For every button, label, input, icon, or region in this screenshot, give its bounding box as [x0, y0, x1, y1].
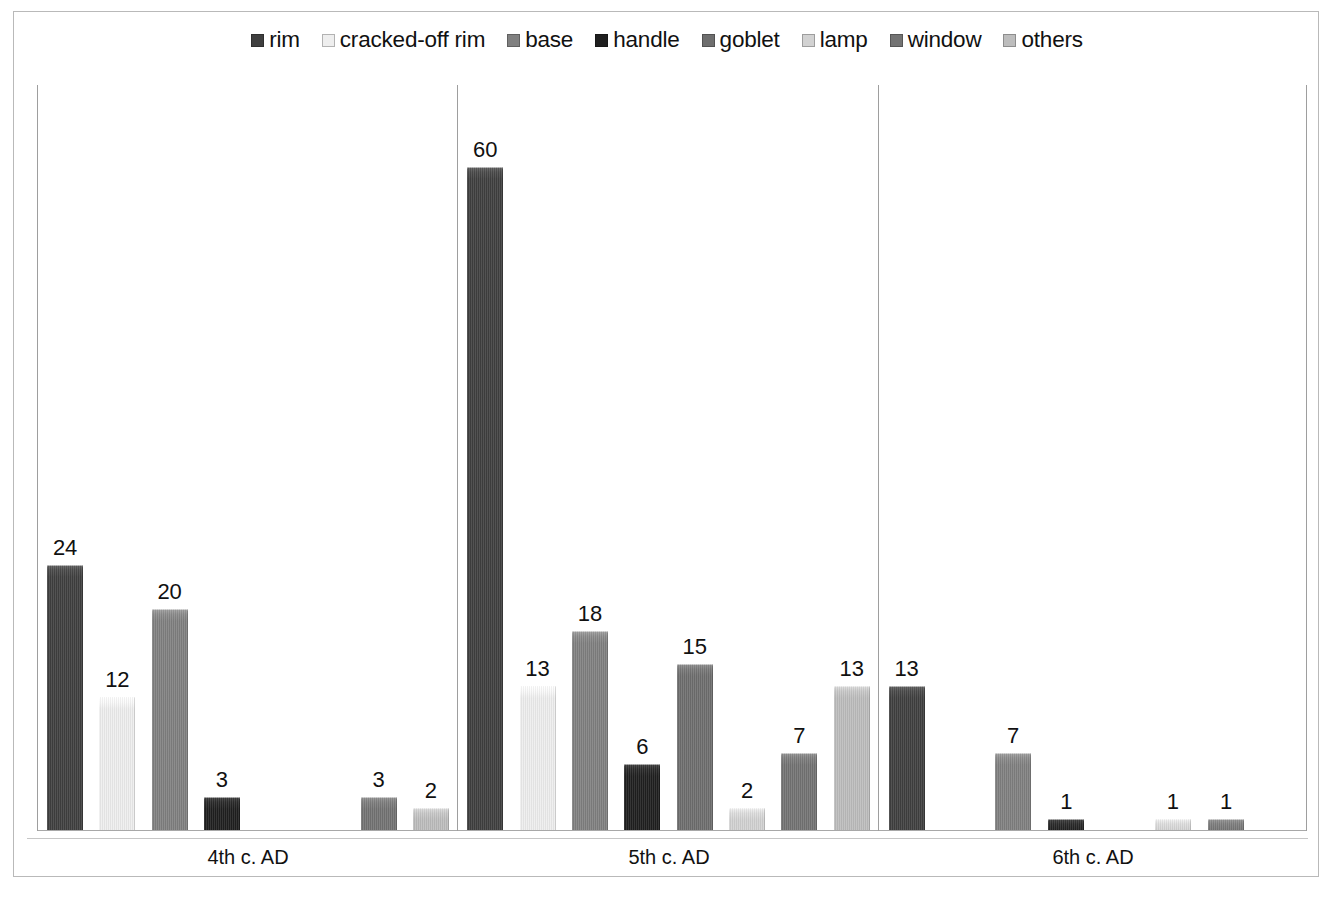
bar[interactable]: 3: [204, 797, 240, 830]
bar-slot-rim: 13: [880, 130, 933, 830]
bar-group-2: 6013186152713: [459, 130, 878, 830]
bar-slot-window: 7: [773, 130, 825, 830]
legend-item-rim[interactable]: rim: [251, 29, 300, 52]
legend-item-label: lamp: [820, 29, 868, 52]
category-label-3: 6th c. AD: [1013, 847, 1173, 867]
legend-item-label: handle: [613, 29, 679, 52]
bar-slot-others: 2: [405, 130, 457, 830]
bar-value-label: 24: [53, 537, 77, 559]
bar-value-label: 15: [682, 636, 706, 658]
legend-item-lamp[interactable]: lamp: [802, 29, 868, 52]
bar-slot-lamp: [300, 130, 352, 830]
bar-slot-handle: 1: [1040, 130, 1093, 830]
bar-value-label: 3: [216, 769, 228, 791]
legend-item-label: rim: [269, 29, 300, 52]
bar-slot-cracked-off-rim: [933, 130, 986, 830]
bar-slot-goblet: [1093, 130, 1146, 830]
bar-value-label: 20: [157, 581, 181, 603]
legend-item-label: others: [1021, 29, 1082, 52]
bar[interactable]: 3: [361, 797, 397, 830]
bar-value-label: 60: [473, 139, 497, 161]
bar-slot-cracked-off-rim: 12: [91, 130, 143, 830]
bar-slot-lamp: 1: [1146, 130, 1199, 830]
bar-slot-others: 13: [826, 130, 878, 830]
legend-item-label: base: [525, 29, 573, 52]
bar-value-label: 2: [741, 780, 753, 802]
bar-value-label: 13: [525, 658, 549, 680]
bar-value-label: 6: [636, 736, 648, 758]
bar-value-label: 1: [1220, 791, 1232, 813]
bar-slot-window: 3: [353, 130, 405, 830]
bar-groups: 2412203324th c. AD60131861527135th c. AD…: [27, 76, 1308, 839]
chart-legend: rimcracked-off rimbasehandlegobletlampwi…: [0, 29, 1334, 52]
bar-value-label: 7: [793, 725, 805, 747]
bar[interactable]: 1: [1208, 819, 1244, 830]
bar[interactable]: 2: [413, 808, 449, 830]
bar-slot-goblet: 15: [669, 130, 721, 830]
bar[interactable]: 2: [729, 808, 765, 830]
bar-slot-goblet: [248, 130, 300, 830]
bar-slot-handle: 3: [196, 130, 248, 830]
bar-value-label: 12: [105, 669, 129, 691]
bar-group-bars: 241220332: [39, 130, 457, 830]
bar-slot-cracked-off-rim: 13: [511, 130, 563, 830]
bar[interactable]: 13: [889, 686, 925, 830]
legend-item-label: goblet: [720, 29, 780, 52]
chart-root: rimcracked-off rimbasehandlegobletlampwi…: [0, 0, 1334, 899]
bar-group-1: 241220332: [39, 130, 457, 830]
bar-value-label: 13: [894, 658, 918, 680]
bar-value-label: 1: [1167, 791, 1179, 813]
legend-item-others[interactable]: others: [1003, 29, 1082, 52]
bar-group-bars: 6013186152713: [459, 130, 878, 830]
legend-item-window[interactable]: window: [890, 29, 982, 52]
bar-value-label: 7: [1007, 725, 1019, 747]
legend-swatch-icon: [1003, 34, 1016, 47]
bar[interactable]: 15: [677, 664, 713, 830]
legend-item-goblet[interactable]: goblet: [702, 29, 780, 52]
bar[interactable]: 1: [1048, 819, 1084, 830]
bar-value-label: 3: [373, 769, 385, 791]
bar[interactable]: 7: [995, 753, 1031, 830]
category-label-2: 5th c. AD: [589, 847, 749, 867]
bar-slot-handle: 6: [616, 130, 668, 830]
bar[interactable]: 20: [152, 609, 188, 830]
bar-value-label: 18: [578, 603, 602, 625]
bar[interactable]: 1: [1155, 819, 1191, 830]
bar-slot-base: 20: [144, 130, 196, 830]
bar-value-label: 13: [840, 658, 864, 680]
legend-swatch-icon: [802, 34, 815, 47]
bar[interactable]: 60: [467, 167, 503, 830]
bar-slot-window: 1: [1200, 130, 1253, 830]
bar[interactable]: 7: [781, 753, 817, 830]
bar-slot-base: 7: [987, 130, 1040, 830]
bar[interactable]: 13: [834, 686, 870, 830]
bar[interactable]: 12: [99, 697, 135, 830]
legend-swatch-icon: [507, 34, 520, 47]
legend-swatch-icon: [251, 34, 264, 47]
bar-slot-rim: 60: [459, 130, 511, 830]
legend-item-label: cracked-off rim: [340, 29, 485, 52]
legend-item-cracked-off-rim[interactable]: cracked-off rim: [322, 29, 485, 52]
bar-group-bars: 137111: [880, 130, 1306, 830]
legend-swatch-icon: [702, 34, 715, 47]
bar-slot-others: [1253, 130, 1306, 830]
bar[interactable]: 24: [47, 565, 83, 830]
legend-item-handle[interactable]: handle: [595, 29, 679, 52]
category-label-1: 4th c. AD: [168, 847, 328, 867]
legend-item-base[interactable]: base: [507, 29, 573, 52]
bar[interactable]: 13: [520, 686, 556, 830]
bar-group-3: 137111: [880, 130, 1306, 830]
bar-value-label: 1: [1060, 791, 1072, 813]
bar-slot-lamp: 2: [721, 130, 773, 830]
bar[interactable]: 18: [572, 631, 608, 830]
bar-slot-base: 18: [564, 130, 616, 830]
bar-value-label: 2: [425, 780, 437, 802]
legend-item-label: window: [908, 29, 982, 52]
legend-swatch-icon: [322, 34, 335, 47]
bar[interactable]: 6: [624, 764, 660, 830]
bar-slot-rim: 24: [39, 130, 91, 830]
legend-swatch-icon: [890, 34, 903, 47]
legend-swatch-icon: [595, 34, 608, 47]
